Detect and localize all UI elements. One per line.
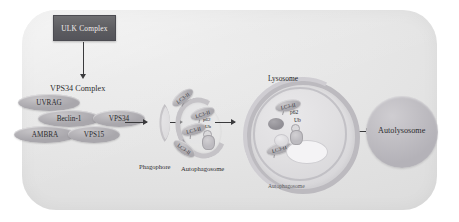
protein-vps15: VPS15 bbox=[68, 126, 120, 143]
vps34-complex-title: VPS34 Complex bbox=[50, 84, 105, 93]
ub-label: Ub bbox=[205, 124, 211, 129]
fused-autophagosome-label: Autophagosome bbox=[268, 183, 305, 189]
autolysosome-label: Autolysosome bbox=[378, 126, 425, 135]
protein-beclin1: Beclin-1 bbox=[38, 110, 100, 127]
lysosome-label: Lysosome bbox=[268, 74, 298, 83]
inner-vesicle-dark bbox=[268, 118, 284, 130]
p62-label: p62 bbox=[203, 117, 211, 122]
inner-vesicle-light bbox=[274, 134, 289, 147]
activation-arrow-icon bbox=[83, 42, 84, 74]
ulk-complex-label: ULK Complex bbox=[61, 24, 107, 33]
cargo-blob-icon bbox=[202, 135, 215, 150]
p62-label: p62 bbox=[290, 109, 298, 115]
cargo-blob-icon bbox=[290, 130, 303, 145]
protein-ambra: AMBRA bbox=[14, 126, 76, 143]
phagophore-label: Phagophore bbox=[139, 163, 171, 170]
ub-label: Ub bbox=[294, 117, 301, 123]
autophagosome-label: Autophagosome bbox=[181, 165, 224, 172]
ulk-complex-box: ULK Complex bbox=[53, 15, 116, 41]
protein-vps34: VPS34 bbox=[93, 110, 145, 127]
arrow-to-phagophore-icon bbox=[125, 122, 147, 123]
figure-canvas: ULK Complex VPS34 Complex UVRAG Beclin-1… bbox=[0, 0, 459, 222]
protein-uvrag: UVRAG bbox=[18, 94, 80, 111]
